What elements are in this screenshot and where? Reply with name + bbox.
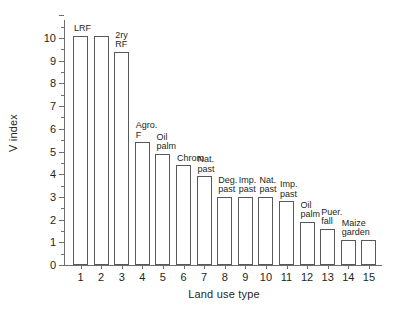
y-tick-mark — [59, 15, 64, 16]
y-axis-line — [64, 20, 65, 265]
x-tick-label: 9 — [242, 271, 248, 283]
y-tick-mark — [59, 174, 64, 175]
y-tick-mark — [59, 106, 64, 107]
bar — [300, 222, 315, 265]
bar-chart: V index 012345678910 1234567891011121314… — [0, 0, 404, 310]
bar — [217, 197, 232, 265]
bar-label: Maize garden — [342, 219, 370, 238]
x-tick-mark — [184, 265, 185, 269]
x-tick-mark — [348, 265, 349, 269]
y-tick-label: 6 — [50, 123, 56, 135]
y-tick-mark — [61, 117, 64, 118]
bar-label: Nat. past — [198, 155, 215, 174]
x-tick-label: 8 — [222, 271, 228, 283]
bar — [73, 36, 88, 265]
y-tick-label: 4 — [50, 168, 56, 180]
x-tick-label: 2 — [98, 271, 104, 283]
y-tick-mark — [61, 231, 64, 232]
y-axis-title: V index — [2, 0, 24, 265]
y-tick-mark — [59, 38, 64, 39]
bar — [341, 240, 356, 265]
y-tick-mark — [59, 152, 64, 153]
y-tick-mark — [59, 129, 64, 130]
bar-label: Oil palm — [156, 133, 176, 152]
y-tick-mark — [61, 186, 64, 187]
y-tick-label: 5 — [50, 146, 56, 158]
x-tick-mark — [163, 265, 164, 269]
bar — [135, 142, 150, 265]
x-tick-mark — [122, 265, 123, 269]
x-tick-mark — [287, 265, 288, 269]
x-tick-label: 10 — [260, 271, 272, 283]
x-tick-label: 1 — [77, 271, 83, 283]
y-tick-mark — [59, 242, 64, 243]
bar — [361, 240, 376, 265]
y-tick-mark — [59, 61, 64, 62]
bar — [94, 36, 109, 265]
bar — [176, 165, 191, 265]
x-tick-label: 15 — [363, 271, 375, 283]
bar-label: Agro. F — [136, 121, 158, 140]
y-tick-label: 1 — [50, 236, 56, 248]
y-tick-mark — [61, 95, 64, 96]
y-tick-mark — [61, 163, 64, 164]
y-tick-label: 9 — [50, 55, 56, 67]
x-tick-label: 5 — [160, 271, 166, 283]
bar-label: 2ry RF — [115, 31, 128, 50]
x-tick-label: 13 — [322, 271, 334, 283]
x-tick-label: 6 — [180, 271, 186, 283]
bar-label: Oil palm — [301, 201, 321, 220]
y-tick-mark — [61, 208, 64, 209]
y-tick-mark — [59, 265, 64, 266]
x-axis-line — [64, 265, 382, 266]
y-tick-mark — [59, 83, 64, 84]
bar-label: Deg. past — [218, 176, 237, 195]
y-tick-label: 0 — [50, 259, 56, 271]
bar-label: Puer. fall — [321, 208, 342, 227]
bar-label: LRF — [74, 24, 91, 34]
x-tick-label: 4 — [139, 271, 145, 283]
bar-label: Imp. past — [239, 176, 257, 195]
bar — [114, 52, 129, 265]
x-tick-label: 7 — [201, 271, 207, 283]
x-tick-label: 12 — [301, 271, 313, 283]
bar — [279, 201, 294, 265]
y-tick-label: 7 — [50, 100, 56, 112]
x-tick-mark — [204, 265, 205, 269]
y-tick-mark — [61, 254, 64, 255]
y-tick-label: 10 — [44, 32, 56, 44]
x-tick-label: 11 — [281, 271, 292, 283]
y-axis-title-text: V index — [7, 113, 19, 151]
x-tick-mark — [142, 265, 143, 269]
y-tick-label: 8 — [50, 77, 56, 89]
bar — [258, 197, 273, 265]
y-tick-label: 2 — [50, 214, 56, 226]
bar-label: Imp. past — [280, 180, 298, 199]
y-tick-mark — [61, 27, 64, 28]
bar — [238, 197, 253, 265]
x-tick-mark — [101, 265, 102, 269]
x-tick-mark — [369, 265, 370, 269]
y-tick-label: 3 — [50, 191, 56, 203]
bar — [155, 154, 170, 265]
x-tick-mark — [328, 265, 329, 269]
y-tick-mark — [61, 49, 64, 50]
x-tick-label: 3 — [119, 271, 125, 283]
x-axis-title-text: Land use type — [188, 288, 260, 300]
y-tick-mark — [61, 140, 64, 141]
bar — [320, 229, 335, 265]
y-tick-mark — [59, 220, 64, 221]
x-axis-title: Land use type — [64, 288, 384, 300]
bar-label: Nat. past — [259, 176, 276, 195]
bar — [197, 176, 212, 265]
x-tick-label: 14 — [342, 271, 354, 283]
y-tick-mark — [61, 72, 64, 73]
x-tick-mark — [266, 265, 267, 269]
y-tick-mark — [59, 197, 64, 198]
x-tick-mark — [225, 265, 226, 269]
x-tick-mark — [307, 265, 308, 269]
x-tick-mark — [81, 265, 82, 269]
x-tick-mark — [245, 265, 246, 269]
